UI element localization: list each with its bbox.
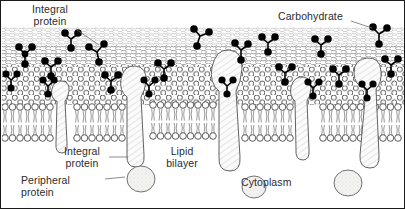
leader-peripheral (105, 177, 125, 179)
membrane-diagram: Integral protein Carbohydrate Integral p… (0, 0, 405, 209)
integral-protein-body (211, 50, 242, 171)
label-peripheral-protein: Peripheral protein (21, 175, 70, 198)
label-carbohydrate: Carbohydrate (278, 11, 343, 23)
integral-protein-body (52, 81, 70, 153)
peripheral-protein (334, 170, 362, 196)
label-cytoplasm: Cytoplasm (241, 177, 292, 189)
label-integral-protein-bottom: Integral protein (53, 146, 111, 169)
integral-protein-body (291, 77, 312, 160)
peripheral-protein (127, 166, 155, 192)
leader-carbohydrate (351, 21, 372, 28)
integral-protein-body (354, 58, 381, 168)
label-integral-protein-top: Integral protein (21, 4, 79, 27)
label-lipid-bilayer: Lipid bilayer (161, 146, 203, 169)
